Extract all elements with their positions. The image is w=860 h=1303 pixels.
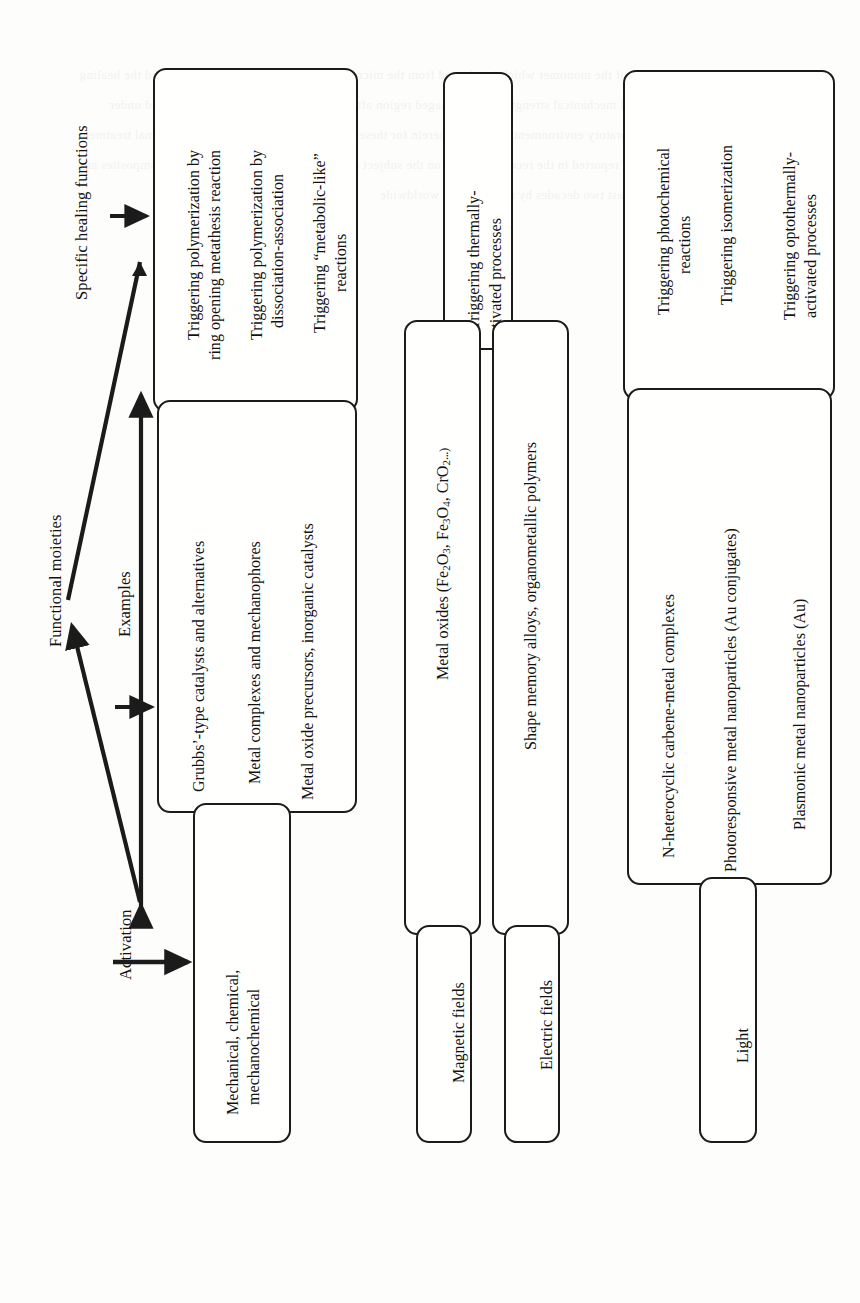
diagram-arrows — [0, 0, 860, 1303]
arrow-functional-moieties-bracket — [68, 262, 147, 902]
self-healing-activation-diagram: Triggering polymerization by ring openin… — [0, 0, 860, 1303]
